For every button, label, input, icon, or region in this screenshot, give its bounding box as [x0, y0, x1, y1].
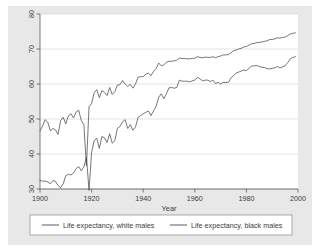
x-tick-label-1920: 1920	[84, 194, 100, 203]
y-tick-label-40: 40	[27, 150, 36, 158]
y-tick-label-30: 30	[27, 185, 36, 193]
x-tick-label-1960: 1960	[187, 194, 203, 203]
x-tick-label-1940: 1940	[135, 194, 151, 203]
y-tick-label-60: 60	[27, 80, 36, 88]
y-tick-label-50: 50	[27, 115, 36, 123]
legend-label-white-males: Life expectancy, white males	[63, 221, 155, 230]
x-tick-label-1980: 1980	[238, 194, 254, 203]
y-tick-label-70: 70	[27, 45, 36, 53]
legend-label-black-males: Life expectancy, black males	[191, 221, 283, 230]
x-tick-label-1900: 1900	[32, 194, 48, 203]
life-expectancy-chart: 304050607080 190019201940196019802000 Ye…	[8, 6, 312, 245]
x-axis-title: Year	[162, 204, 177, 213]
chart-figure: 304050607080 190019201940196019802000 Ye…	[8, 6, 312, 245]
x-tick-label-2000: 2000	[290, 194, 306, 203]
plot-area-background	[40, 14, 298, 189]
chart-legend: Life expectancy, white males Life expect…	[30, 215, 292, 235]
y-tick-label-80: 80	[27, 10, 36, 18]
